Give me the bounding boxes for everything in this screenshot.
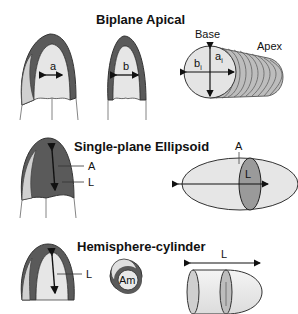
heart-long-axis-view: L [21,244,92,300]
label-base: Base [195,28,220,40]
heart-two-chamber-view: b [108,36,146,120]
label-L-heart: L [86,268,92,280]
label-L-section: L [245,168,251,180]
label-L: L [88,176,94,188]
hemisphere-cylinder-model: L [187,248,262,314]
heart-four-chamber-view: a [20,34,78,120]
heart-single-plane-view: A L [20,138,96,218]
label-A-area: A [235,140,243,152]
label-b: b [123,60,129,72]
label-a: a [50,60,57,72]
label-Am: Am [119,274,136,286]
diagram-canvas: a b bi ai Base Apex A L [0,0,298,314]
disc-stack-model: bi ai Base Apex [184,28,283,98]
label-apex: Apex [257,40,283,52]
short-axis-cross-section: Am [110,259,142,294]
label-A: A [88,160,96,172]
ellipsoid-model: L A [176,140,298,210]
label-L-cylinder: L [221,248,227,260]
